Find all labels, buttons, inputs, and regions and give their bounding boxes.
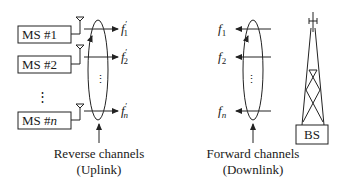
- channel-ellipse: [243, 20, 263, 120]
- freq-label-downlink-1: f1: [218, 21, 226, 38]
- freq-label-uplink-n: f′n: [121, 101, 129, 120]
- freq-label-uplink-1: f′1: [121, 19, 128, 38]
- mobile-station-2: MS #2: [18, 45, 84, 73]
- ms-label: MS #1: [22, 27, 57, 42]
- reverse-caption-line1: Reverse channels: [54, 146, 145, 161]
- ms-label: MS #2: [22, 57, 57, 72]
- antenna-icon: [76, 45, 84, 49]
- bs-label: BS: [304, 127, 320, 142]
- antenna-feed: [71, 48, 80, 64]
- ellipse-arrow-icon: [246, 36, 248, 41]
- forward-caption-line2: (Downlink): [223, 162, 284, 177]
- mobile-station-1: MS #1: [18, 17, 84, 43]
- antenna-icon: [76, 104, 84, 108]
- antenna-feed: [71, 20, 80, 34]
- channel-ellipsis: ⋮: [95, 73, 106, 85]
- mobile-station-n: MS #n: [18, 104, 84, 129]
- freq-label-downlink-n: fn: [218, 103, 227, 120]
- channel-ellipsis: ⋮: [246, 73, 257, 85]
- forward-caption-line1: Forward channels: [207, 146, 300, 161]
- base-station: BS: [296, 12, 328, 144]
- ms-label: MS #n: [22, 113, 57, 128]
- reverse-caption-line2: (Uplink): [77, 162, 122, 177]
- forward-channel-group: ⋮ f1 f2 fn Forward channels (Downlink): [207, 20, 300, 177]
- ms-ellipsis: ⋮: [36, 89, 49, 104]
- freq-label-uplink-2: f′2: [121, 47, 128, 66]
- freq-label-downlink-2: f2: [218, 49, 226, 66]
- antenna-feed: [71, 107, 80, 120]
- antenna-icon: [76, 17, 84, 21]
- channel-ellipse: [88, 20, 108, 120]
- channel-diagram: MS #1 MS #2 ⋮ MS #n ⋮ f′1 f′2 f′n Revers…: [0, 0, 345, 185]
- tower-icon: [302, 12, 324, 125]
